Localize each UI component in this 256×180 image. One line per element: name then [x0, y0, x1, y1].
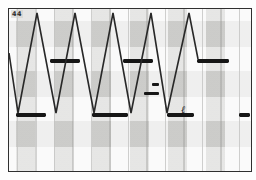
corner-label: 44: [11, 10, 23, 18]
lower-level-bar: [239, 113, 250, 117]
glitch-dash: [144, 92, 159, 95]
waveform-svg: ℓ: [9, 9, 251, 171]
upper-level-bar: [123, 59, 153, 63]
lower-level-bar: [16, 113, 46, 117]
lower-level-bar: [92, 113, 128, 117]
glitch-dash: [152, 83, 159, 86]
upper-level-bar: [197, 59, 229, 63]
triangle-wave-trace: [9, 13, 198, 113]
waveform-plot: ℓ 44: [8, 8, 252, 172]
figure-canvas: ℓ 44: [0, 0, 256, 180]
squiggle-annotation: ℓ: [181, 104, 185, 115]
